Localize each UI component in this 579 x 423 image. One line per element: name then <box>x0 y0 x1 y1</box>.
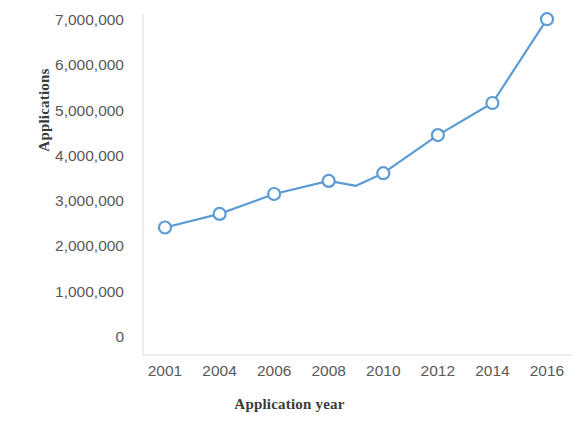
x-axis-tick-label: 2014 <box>462 362 522 380</box>
data-point-marker <box>214 208 226 220</box>
data-point-marker <box>323 175 335 187</box>
data-point-marker <box>541 13 553 25</box>
x-axis-tick-label: 2001 <box>135 362 195 380</box>
data-point-marker <box>432 129 444 141</box>
data-point-marker <box>486 97 498 109</box>
x-axis-tick-label: 2010 <box>353 362 413 380</box>
y-axis-tick-label: 2,000,000 <box>28 237 124 255</box>
y-axis-tick-label: 3,000,000 <box>28 192 124 210</box>
series-applications <box>159 13 553 233</box>
y-axis-tick-label: 4,000,000 <box>28 147 124 165</box>
y-axis-tick-label: 6,000,000 <box>28 56 124 74</box>
y-axis-tick-label: 0 <box>28 328 124 346</box>
x-axis-tick-label: 2006 <box>244 362 304 380</box>
series-markers <box>159 13 553 233</box>
line-chart: Applications Application year 7,000,0006… <box>0 0 579 423</box>
x-axis-tick-label: 2008 <box>299 362 359 380</box>
y-axis-tick-label: 1,000,000 <box>28 283 124 301</box>
data-point-marker <box>377 167 389 179</box>
x-axis-tick-label: 2016 <box>517 362 577 380</box>
y-axis-title-container: Applications <box>6 100 28 280</box>
data-point-marker <box>159 222 171 234</box>
y-axis-tick-label: 5,000,000 <box>28 102 124 120</box>
x-axis-tick-label: 2012 <box>408 362 468 380</box>
x-axis-tick-label: 2004 <box>190 362 250 380</box>
data-point-marker <box>268 188 280 200</box>
x-axis-title: Application year <box>0 396 579 413</box>
y-axis-tick-label: 7,000,000 <box>28 11 124 29</box>
series-line-applications <box>165 19 547 227</box>
